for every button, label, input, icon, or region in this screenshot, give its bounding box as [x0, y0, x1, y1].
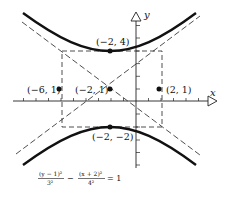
- equation-term1-numerator: (y − 1)²: [39, 170, 63, 178]
- vertex-top-label: (−2, 4): [96, 36, 130, 47]
- equation-term1-denominator: 3²: [47, 179, 54, 186]
- x-axis: [13, 98, 210, 101]
- y-axis: [136, 21, 140, 168]
- hyperbola-diagram: (−2, 4) (−2, −2) (−2, 1) (−6, 1) (2, 1) …: [0, 0, 229, 198]
- equation-term2-denominator: 4²: [88, 179, 95, 186]
- y-axis-arrow-icon: [131, 12, 141, 21]
- vertex-top-point: [108, 49, 113, 54]
- left-point-label: (−6, 1): [27, 84, 61, 95]
- center-label: (−2, 1): [75, 84, 109, 95]
- right-point: [157, 87, 162, 92]
- equation-rhs: = 1: [107, 174, 121, 183]
- right-point-label: (2, 1): [166, 84, 192, 95]
- equation-minus: −: [67, 174, 74, 183]
- vertex-bottom-point: [108, 125, 113, 130]
- vertex-bottom-label: (−2, −2): [92, 131, 133, 142]
- equation-term2-numerator: (x + 2)²: [79, 170, 103, 177]
- x-axis-label: x: [210, 87, 216, 98]
- equation: (y − 1)² 3² − (x + 2)² 4² = 1: [38, 170, 121, 186]
- y-axis-label: y: [143, 9, 150, 20]
